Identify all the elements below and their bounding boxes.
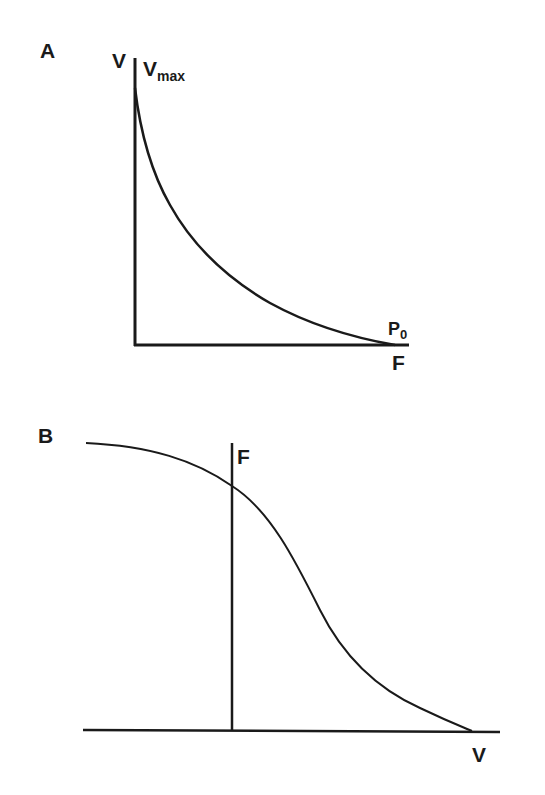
p0-label-main: P — [388, 319, 400, 339]
panel-b-label: B — [38, 425, 53, 446]
panel-a-y-axis-label: V — [112, 50, 126, 71]
panel-b-y-axis-label: F — [237, 446, 250, 467]
vmax-label: Vmax — [143, 58, 185, 79]
panel-b-force-velocity-curve — [86, 443, 472, 731]
p0-label-sub: 0 — [400, 327, 407, 342]
panel-b-x-axis — [83, 730, 500, 732]
figure-canvas — [0, 0, 545, 795]
panel-b-x-axis-label: V — [472, 744, 486, 765]
panel-a-x-axis-label: F — [392, 352, 405, 373]
panel-a-label: A — [40, 40, 55, 61]
panel-a-force-velocity-curve — [135, 88, 395, 345]
vmax-label-sub: max — [157, 68, 185, 84]
p0-label: P0 — [388, 320, 407, 338]
vmax-label-main: V — [143, 57, 157, 80]
